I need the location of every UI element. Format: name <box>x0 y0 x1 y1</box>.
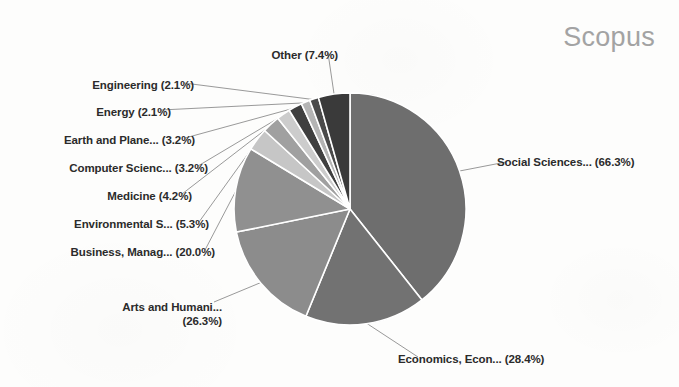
pie-label-arts-humanities-line1: Arts and Humani... <box>122 301 222 313</box>
pie-label-business: Business, Manag... (20.0%) <box>71 245 215 259</box>
pie-chart <box>0 0 679 387</box>
pie-label-arts-humanities-line2: (26.3%) <box>122 314 222 328</box>
pie-label-computer-science: Computer Scienc... (3.2%) <box>69 161 208 175</box>
pie-label-economics: Economics, Econ... (28.4%) <box>398 352 544 366</box>
pie-label-social-sciences: Social Sciences... (66.3%) <box>497 155 634 169</box>
pie-label-medicine: Medicine (4.2%) <box>107 189 192 203</box>
pie-label-arts-humanities: Arts and Humani... (26.3%) <box>122 300 222 328</box>
pie-label-environmental: Environmental S... (5.3%) <box>74 217 209 231</box>
leader-line <box>184 83 314 100</box>
pie-label-other: Other (7.4%) <box>271 48 338 62</box>
leader-line <box>205 189 237 250</box>
leader-line <box>161 103 306 110</box>
pie-label-energy: Energy (2.1%) <box>96 105 171 119</box>
pie-label-earth-planetary: Earth and Plane... (3.2%) <box>64 133 195 147</box>
pie-label-engineering: Engineering (2.1%) <box>92 78 194 92</box>
pie-slice-group <box>234 93 466 325</box>
